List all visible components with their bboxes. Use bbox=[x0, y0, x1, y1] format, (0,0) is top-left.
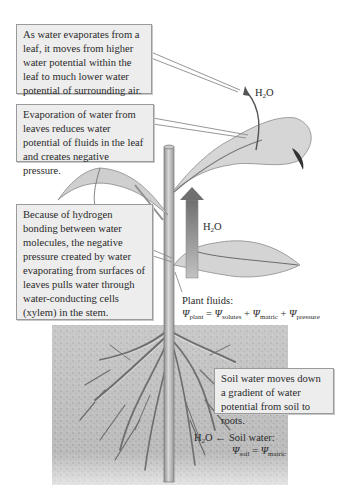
h2o-soil-o: O bbox=[205, 432, 213, 443]
psi-matric-sub: matric bbox=[268, 450, 286, 458]
h2o-label-top: H2O bbox=[255, 86, 274, 99]
equals: = bbox=[250, 445, 261, 456]
psi-pressure-sub: pressure bbox=[296, 313, 319, 321]
psi-solutes-sub: solutes bbox=[222, 313, 241, 321]
plus: + bbox=[278, 308, 289, 319]
soil-arrow-icon: ← bbox=[213, 432, 226, 443]
equals: = bbox=[203, 308, 214, 319]
soil-water-title: Soil water: bbox=[229, 431, 275, 444]
h2o-label-mid: H2O bbox=[203, 220, 222, 233]
plant-water-potential-equation: Ψplant = Ψsolutes + Ψmatric + Ψpressure bbox=[182, 307, 320, 320]
h2o-top-h: H bbox=[255, 87, 263, 98]
callout-hydrogen-bonding-text: Because of hydrogen bonding between wate… bbox=[23, 209, 145, 318]
h2o-mid-h: H bbox=[203, 221, 211, 232]
h2o-top-o: O bbox=[266, 87, 274, 98]
psi-matric-sub: matric bbox=[260, 313, 278, 321]
psi-symbol: Ψ bbox=[215, 308, 222, 319]
psi-symbol: Ψ bbox=[261, 445, 268, 456]
psi-plant-sub: plant bbox=[189, 313, 203, 321]
upper-right-leaf bbox=[174, 118, 311, 192]
callout-hydrogen-bonding: Because of hydrogen bonding between wate… bbox=[16, 204, 153, 320]
callout-soil-gradient: Soil water moves down a gradient of wate… bbox=[214, 368, 334, 414]
h2o-mid-o: O bbox=[214, 221, 222, 232]
psi-symbol: Ψ bbox=[253, 308, 260, 319]
h2o-soil-h: H bbox=[194, 432, 202, 443]
callout-leaf-evaporation-text: As water evaporates from a leaf, it move… bbox=[23, 29, 141, 96]
stem bbox=[164, 145, 174, 482]
h2o-label-soil: H2O ← bbox=[194, 431, 226, 444]
callout-leaf-evaporation: As water evaporates from a leaf, it move… bbox=[16, 24, 152, 94]
psi-soil-sub: soil bbox=[239, 450, 249, 458]
callout-negative-pressure: Evaporation of water from leaves reduces… bbox=[16, 104, 154, 162]
plus: + bbox=[241, 308, 252, 319]
plant-fluids-title: Plant fluids: bbox=[182, 294, 233, 307]
soil-water-potential-equation: Ψsoil = Ψmatric bbox=[232, 444, 286, 457]
